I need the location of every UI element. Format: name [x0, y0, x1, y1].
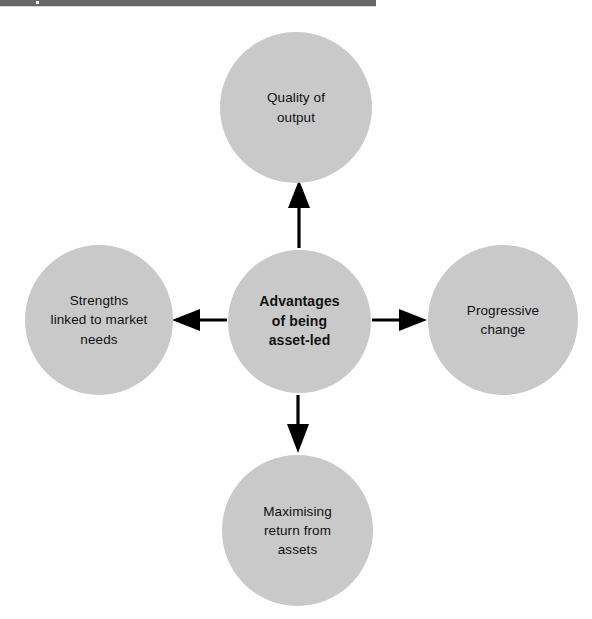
hub-and-spoke-diagram: Advantages of being asset-led Quality of…: [0, 0, 592, 619]
node-left-strengths-linked-to-market-needs[interactable]: Strengths linked to market needs: [25, 245, 173, 395]
arrow-right: [372, 309, 427, 331]
node-top-quality-of-output[interactable]: Quality of output: [220, 32, 372, 183]
node-top-label: Quality of output: [257, 88, 335, 126]
arrow-up: [288, 180, 310, 248]
node-left-label: Strengths linked to market needs: [41, 291, 158, 348]
node-center[interactable]: Advantages of being asset-led: [228, 250, 371, 393]
arrow-left: [172, 309, 227, 331]
node-right-label: Progressive change: [457, 301, 549, 339]
node-bottom-maximising-return-from-assets[interactable]: Maximising return from assets: [222, 455, 373, 606]
node-center-label: Advantages of being asset-led: [249, 292, 349, 352]
node-bottom-label: Maximising return from assets: [253, 502, 342, 559]
arrow-down: [287, 395, 309, 453]
node-right-progressive-change[interactable]: Progressive change: [428, 245, 578, 395]
